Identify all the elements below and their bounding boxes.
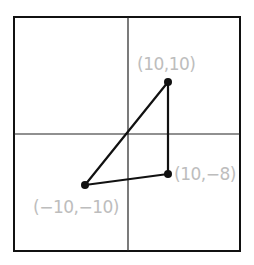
coordinate-plane (0, 0, 254, 265)
point-10-10 (164, 78, 172, 86)
coordinate-diagram: (10,10) (10,−8) (−10,−10) (0, 0, 254, 265)
point-10-neg8 (164, 170, 172, 178)
label-point-neg10-neg10: (−10,−10) (33, 199, 119, 216)
label-point-10-neg8: (10,−8) (174, 166, 236, 183)
label-point-10-10: (10,10) (137, 56, 195, 73)
point-neg10-neg10 (81, 181, 89, 189)
